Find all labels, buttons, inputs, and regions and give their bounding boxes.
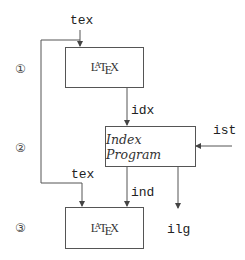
idx-label: idx (131, 104, 154, 117)
latex-logo: LATEX (91, 60, 119, 75)
index-program-box: Index Program (105, 126, 196, 167)
latex-box-top: LATEX (65, 47, 144, 88)
ilg-label: ilg (167, 223, 190, 236)
index-program-label: Index Program (106, 132, 195, 162)
step-3-marker: ③ (15, 222, 26, 234)
index-workflow-diagram: ① ② ③ tex idx ist tex ind ilg LATEX Inde… (0, 0, 245, 260)
latex-logo: LATEX (91, 221, 119, 236)
step-2-marker: ② (15, 142, 26, 154)
tex-reuse-label: tex (71, 168, 94, 181)
tex-input-label: tex (70, 14, 93, 27)
ist-label: ist (213, 124, 236, 137)
latex-box-bottom: LATEX (65, 207, 144, 249)
ind-label: ind (131, 186, 154, 199)
step-1-marker: ① (15, 63, 26, 75)
